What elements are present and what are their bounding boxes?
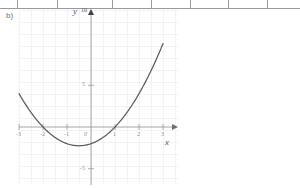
- ruler-tick: [57, 0, 58, 8]
- ruler-tick: [267, 0, 268, 8]
- parabola-curve-path: [19, 44, 163, 146]
- ruler-tick: [112, 0, 113, 8]
- ruler-tick: [17, 0, 18, 8]
- page-ruler-strip: [0, 0, 300, 9]
- figure-part-label: b): [6, 11, 13, 20]
- figure-canvas: b): [0, 0, 300, 188]
- ruler-tick: [190, 0, 191, 8]
- ruler-tick: [228, 0, 229, 8]
- ruler-tick: [151, 0, 152, 8]
- ruler-baseline: [0, 8, 300, 9]
- curve-layer: [19, 10, 178, 185]
- plot-area: -3 -2 -1 0 1 2 3 5 -5 x y 10: [19, 10, 178, 185]
